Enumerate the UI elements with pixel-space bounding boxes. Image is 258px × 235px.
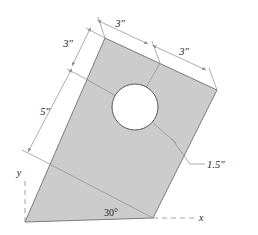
circular-hole <box>112 84 158 130</box>
top-right-dimension-label: 3″ <box>178 46 189 57</box>
diagram-canvas: 3″ 3″ 3″ 5″ 1.5″ y x <box>0 0 258 235</box>
hole-group <box>112 84 158 130</box>
hole-radius-label: 1.5″ <box>207 159 225 170</box>
left-lower-dimension-label: 5″ <box>40 106 50 117</box>
top-extension-mid <box>152 41 160 63</box>
x-axis-label: x <box>198 212 204 223</box>
left-upper-dimension-label: 3″ <box>62 38 73 49</box>
left-extension-mid <box>67 69 86 79</box>
plate-outline <box>25 38 217 222</box>
top-left-dimension-label: 3″ <box>114 18 125 29</box>
plate-body-group <box>25 38 217 222</box>
engineering-diagram-figure: 3″ 3″ 3″ 5″ 1.5″ y x <box>0 0 258 235</box>
y-axis-label: y <box>16 167 22 178</box>
base-angle-label: 30° <box>104 207 118 218</box>
left-dimension-line-upper <box>72 31 89 66</box>
left-extension-bottom <box>22 150 38 158</box>
